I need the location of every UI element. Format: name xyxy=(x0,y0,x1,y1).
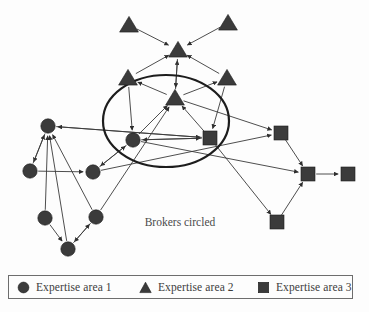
network-node-square[interactable] xyxy=(341,167,355,181)
network-node-square[interactable] xyxy=(270,215,284,229)
network-node-circle[interactable] xyxy=(38,211,52,225)
network-node-circle[interactable] xyxy=(23,164,37,178)
network-edge xyxy=(187,27,220,45)
legend-label-expertise-area-1: Expertise area 1 xyxy=(36,281,112,293)
legend-item-expertise-area-1: Expertise area 1 xyxy=(17,276,112,298)
network-edge xyxy=(50,136,67,241)
network-edge xyxy=(73,224,89,242)
network-node-triangle[interactable] xyxy=(169,41,188,57)
square-icon xyxy=(257,281,270,294)
network-edge xyxy=(137,29,169,45)
legend-label-expertise-area-3: Expertise area 3 xyxy=(276,281,352,293)
network-edge xyxy=(143,138,202,140)
network-node-circle[interactable] xyxy=(61,242,75,256)
network-edge xyxy=(50,225,62,242)
edges-layer xyxy=(33,27,338,243)
legend-container: Expertise area 1 Expertise area 2 Expert… xyxy=(8,275,353,299)
brokers-circle-highlight xyxy=(103,75,229,167)
network-edge xyxy=(182,106,205,132)
network-node-square-broker[interactable] xyxy=(203,131,217,145)
network-node-triangle[interactable] xyxy=(119,69,138,85)
network-edge xyxy=(187,55,219,73)
network-node-circle[interactable] xyxy=(86,165,100,179)
diagram-caption: Brokers circled xyxy=(145,216,216,228)
network-edge xyxy=(176,59,178,87)
network-edge xyxy=(129,87,132,130)
network-node-square[interactable] xyxy=(301,167,315,181)
legend-item-expertise-area-2: Expertise area 2 xyxy=(139,276,234,298)
legend-item-expertise-area-3: Expertise area 3 xyxy=(257,276,352,298)
circle-icon xyxy=(17,281,30,294)
network-edge xyxy=(33,135,44,163)
network-edge xyxy=(138,82,167,94)
network-edge xyxy=(38,171,83,172)
network-diagram-figure: Brokers circled Expertise area 1 Experti… xyxy=(0,0,369,312)
network-edge xyxy=(286,140,303,166)
network-node-triangle-broker[interactable] xyxy=(166,89,185,105)
network-node-triangle[interactable] xyxy=(218,69,237,85)
network-node-triangle[interactable] xyxy=(120,16,139,32)
triangle-icon xyxy=(139,281,152,294)
network-edge xyxy=(136,55,169,73)
network-edge xyxy=(45,136,47,210)
network-canvas: Brokers circled xyxy=(0,0,369,312)
network-edge xyxy=(281,182,302,215)
legend-label-expertise-area-2: Expertise area 2 xyxy=(158,281,234,293)
network-node-circle[interactable] xyxy=(89,210,103,224)
network-edge xyxy=(215,144,271,214)
network-node-circle-broker[interactable] xyxy=(126,133,140,147)
network-edge xyxy=(99,146,125,167)
network-node-circle[interactable] xyxy=(41,119,55,133)
network-node-triangle[interactable] xyxy=(219,14,238,30)
network-edge xyxy=(139,106,168,135)
network-node-square[interactable] xyxy=(274,126,288,140)
